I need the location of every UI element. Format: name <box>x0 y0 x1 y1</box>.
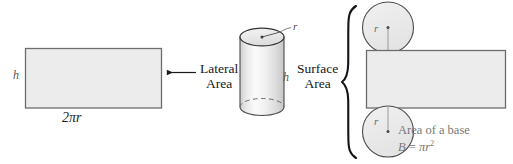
formula-exponent: 2 <box>430 139 434 148</box>
left-rectangle-height-label: h <box>13 69 19 82</box>
area-of-base-text: Area of a base <box>398 123 470 137</box>
left-rectangle-width-label: 2πr <box>62 110 81 126</box>
surface-area-line2: Area <box>305 76 331 91</box>
area-of-base-formula: B = πr2 <box>398 139 470 154</box>
lateral-area-line2: Area <box>206 76 232 91</box>
top-base-radius-label: r <box>374 22 378 34</box>
cylinder-height-label: h <box>283 71 289 84</box>
lateral-area-line1: Lateral <box>200 61 238 76</box>
right-top-base-circle <box>363 2 414 53</box>
lateral-area-caption: Lateral Area <box>200 61 238 91</box>
left-lateral-rectangle <box>26 49 162 109</box>
cylinder-surface-area-figure: h 2πr Lateral Area r h Surface Area r r … <box>0 0 513 164</box>
right-lateral-rectangle <box>367 51 506 109</box>
surface-area-line1: Surface <box>297 61 338 76</box>
formula-B: B <box>398 140 406 154</box>
cylinder-radius-label: r <box>293 20 297 32</box>
surface-area-brace <box>342 6 356 158</box>
area-of-base-note: Area of a base B = πr2 <box>398 123 470 154</box>
bottom-base-radius-label: r <box>374 115 378 127</box>
surface-area-caption: Surface Area <box>297 61 338 91</box>
formula-equals: = <box>406 140 419 154</box>
